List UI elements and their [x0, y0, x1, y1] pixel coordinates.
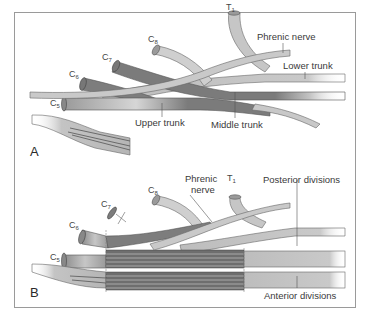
anterior-graft-cables	[106, 272, 244, 290]
label-lower-trunk: Lower trunk	[283, 60, 333, 71]
c6-root-b	[82, 230, 108, 248]
label-anterior-divisions: Anterior divisions	[264, 290, 337, 301]
panel-a: C8 C7 C6 C5 T1 Phrenic nerve Lower trunk…	[30, 2, 345, 159]
brachial-plexus-figure: C8 C7 C6 C5 T1 Phrenic nerve Lower trunk…	[0, 0, 368, 318]
diagram-canvas: C8 C7 C6 C5 T1 Phrenic nerve Lower trunk…	[0, 0, 368, 318]
upper-trunk-a	[64, 98, 270, 116]
label-phrenic-nerve-a: Phrenic nerve	[257, 31, 316, 42]
root-label-c6-a: C6	[69, 69, 80, 80]
root-label-c8-a: C8	[148, 34, 159, 45]
label-phrenic-b-line1: Phrenic	[185, 173, 217, 184]
label-middle-trunk: Middle trunk	[211, 119, 263, 130]
root-label-c6-b: C6	[69, 220, 80, 231]
label-upper-trunk: Upper trunk	[135, 117, 185, 128]
panel-b: C8 C7 C6 C5 T1 Phrenic nerve Posterior d…	[30, 173, 345, 301]
cut-mark-icon	[116, 214, 126, 222]
anterior-divisions-b	[244, 272, 345, 288]
label-posterior-divisions: Posterior divisions	[263, 174, 340, 185]
t1-root-cap-b	[229, 195, 241, 199]
panel-letter-b: B	[30, 285, 39, 300]
posterior-divisions-b	[244, 251, 345, 267]
panel-letter-a: A	[30, 144, 39, 159]
root-label-t1-a: T1	[226, 2, 236, 13]
root-label-c5-a: C5	[50, 98, 61, 109]
root-label-c7-a: C7	[102, 52, 113, 63]
root-label-t1-b: T1	[227, 173, 237, 184]
root-label-c5-b: C5	[50, 252, 61, 263]
root-label-c7-b: C7	[101, 199, 112, 210]
posterior-graft-cables	[106, 250, 244, 268]
c5-root-cap-a	[62, 97, 67, 111]
c5-root-b	[64, 255, 106, 268]
label-phrenic-b-line2: nerve	[191, 184, 215, 195]
root-label-c8-b: C8	[148, 185, 159, 196]
